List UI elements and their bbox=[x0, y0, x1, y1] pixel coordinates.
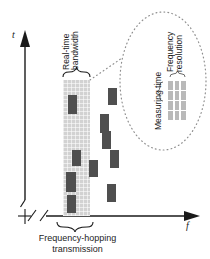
burst-block bbox=[72, 150, 81, 166]
grid-cell bbox=[168, 111, 173, 120]
figure-caption: Frequency-hopping transmission bbox=[10, 233, 145, 254]
figure-canvas: t f Real-time bandwidth Measuring time F… bbox=[0, 0, 210, 259]
frequency-resolution-line-2: resolution bbox=[175, 32, 184, 72]
burst-block bbox=[107, 184, 116, 202]
real-time-bandwidth-line-2: bandwidth bbox=[71, 31, 80, 70]
figure-caption-line-2: transmission bbox=[10, 244, 145, 255]
burst-block bbox=[102, 131, 111, 149]
grid-cell bbox=[181, 101, 186, 110]
grid-cell bbox=[175, 91, 180, 100]
burst-block bbox=[110, 150, 119, 168]
frequency-hopping-brace bbox=[57, 222, 93, 232]
figure-caption-line-1: Frequency-hopping bbox=[10, 233, 145, 244]
frequency-resolution-grid bbox=[168, 81, 186, 120]
measuring-time-label: Measuring time bbox=[154, 72, 163, 130]
time-axis-label: t bbox=[12, 29, 15, 40]
real-time-bandwidth-label: Real-time bandwidth bbox=[62, 31, 80, 70]
grid-cell bbox=[175, 81, 180, 90]
grid-cell bbox=[181, 91, 186, 100]
frequency-axis-label: f bbox=[186, 220, 189, 231]
callout-leader-line bbox=[90, 58, 122, 80]
burst-block bbox=[66, 172, 76, 192]
grid-cell bbox=[168, 81, 173, 90]
frequency-resolution-label: Frequency resolution bbox=[166, 32, 184, 72]
grid-cell bbox=[168, 91, 173, 100]
burst-block bbox=[108, 88, 117, 105]
grid-cell bbox=[175, 111, 180, 120]
grid-cell bbox=[175, 101, 180, 110]
time-axis bbox=[20, 30, 30, 207]
grid-cell bbox=[181, 111, 186, 120]
grid-cell bbox=[181, 81, 186, 90]
burst-block bbox=[89, 160, 98, 177]
callout-ellipse bbox=[120, 12, 206, 150]
burst-block bbox=[67, 195, 76, 213]
axis-break-marks bbox=[18, 209, 48, 224]
grid-cell bbox=[168, 101, 173, 110]
burst-block bbox=[68, 95, 77, 114]
